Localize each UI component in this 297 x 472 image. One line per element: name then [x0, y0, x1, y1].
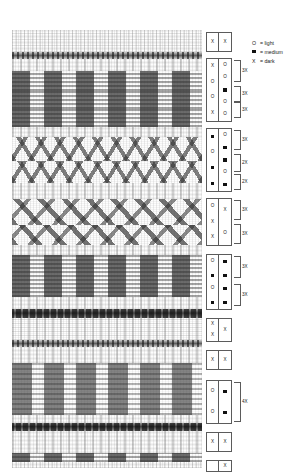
notation-block-5-right-column — [219, 255, 231, 309]
notation-block-8-right-column — [219, 381, 231, 423]
fabric-band-speckle-6 — [12, 297, 202, 309]
notation-cell-left-char: X — [207, 106, 218, 122]
fabric-band-blocks-5 — [12, 277, 202, 297]
notation-block-9-right-column: X — [219, 433, 231, 451]
notation-cell-left-char: O — [207, 381, 218, 402]
notation-block-4-right-column: XO — [219, 199, 231, 245]
notation-cell-left-square — [207, 296, 218, 310]
legend-label: = medium — [260, 49, 283, 55]
notation-cell-left-char: X — [207, 33, 218, 51]
fabric-band-speckle-top — [12, 30, 202, 52]
medium-square-icon — [252, 50, 256, 54]
fabric-band-speckle-5 — [12, 245, 202, 255]
notation-block-3-right-column: OO — [219, 129, 231, 191]
notation-block-10-left-column — [207, 461, 219, 471]
medium-square-icon — [211, 301, 214, 304]
notation-cell-right-square — [219, 84, 231, 96]
fabric-band-cord-1 — [12, 52, 202, 59]
notation-cell-left-char: O — [207, 282, 218, 296]
notation-block-4-left-column: OXX — [207, 199, 219, 245]
notation-cell-left-char: X — [207, 230, 218, 245]
notation-block-2-repeat-bracket — [234, 60, 241, 82]
fabric-band-speckle-4 — [12, 183, 202, 199]
weave-notation-column: XXXOOXOOOO3X3X3XOOO3X2X2XOXXXO3X3XOO3X3X… — [206, 32, 258, 472]
notation-cell-left-char: X — [207, 214, 218, 229]
legend-label: = dark — [260, 58, 275, 64]
notation-block-2-repeat-label: 3X — [242, 108, 248, 113]
notation-cell-right-square — [219, 179, 231, 191]
legend-row-medium: = medium — [252, 47, 297, 56]
notation-block-4-repeat-label: 3X — [242, 232, 248, 237]
notation-block-8: OO4X — [206, 380, 258, 424]
fabric-band-speckle-2 — [12, 59, 202, 71]
notation-block-3-repeat-label: 2X — [242, 161, 248, 166]
fabric-band-speckle-3 — [12, 127, 202, 137]
notation-block-8-left-column: OO — [207, 381, 219, 423]
notation-cell-left-square — [207, 176, 218, 192]
notation-cell-right-char: O — [219, 96, 231, 108]
legend-row-o: O= light — [252, 38, 297, 47]
notation-cell-left-char: O — [207, 199, 218, 214]
notation-block-9-grid: XX — [206, 432, 232, 452]
notation-cell-left-char: X — [207, 433, 218, 451]
notation-cell-right-char: O — [219, 166, 231, 178]
legend-symbol-x: X — [252, 58, 260, 64]
fabric-band-zigzag-4 — [12, 225, 202, 245]
fabric-band-zigzag-3 — [12, 199, 202, 225]
notation-cell-right-char: X — [219, 433, 231, 451]
notation-block-2: XOOXOOOO3X3X3X — [206, 58, 258, 122]
notation-cell-right-square — [219, 296, 231, 310]
notation-block-4-repeat-bracket — [234, 224, 241, 244]
medium-square-icon — [223, 158, 226, 161]
medium-square-icon — [223, 301, 226, 304]
notation-block-4-repeat-bracket — [234, 200, 241, 220]
notation-block-7-right-column: X — [219, 351, 231, 369]
notation-block-8-repeat-bracket — [234, 382, 241, 422]
legend-row-x: X= dark — [252, 56, 297, 65]
notation-cell-right-square — [219, 154, 231, 166]
notation-block-6-left-column: XX — [207, 319, 219, 341]
notation-block-5-repeat-bracket — [234, 284, 241, 306]
notation-cell-right-char: X — [219, 461, 231, 471]
medium-square-icon — [223, 260, 226, 263]
fabric-band-blocks-2 — [12, 91, 202, 109]
notation-block-5-repeat-label: 3X — [242, 293, 248, 298]
notation-cell-left-char: O — [207, 75, 218, 91]
notation-cell-right-char: X — [219, 351, 231, 369]
notation-block-7: XX — [206, 350, 258, 370]
notation-block-1: XX — [206, 32, 258, 52]
fabric-band-speckle-8 — [12, 347, 202, 363]
notation-block-4-grid: OXXXO — [206, 198, 232, 246]
notation-cell-right-char: O — [219, 222, 231, 245]
notation-cell-left-square — [207, 269, 218, 283]
notation-block-2-repeat-bracket — [234, 102, 241, 118]
notation-block-2-grid: XOOXOOOO — [206, 58, 232, 122]
notation-cell-right-char: X — [219, 319, 231, 341]
notation-cell-right-square — [219, 381, 231, 402]
notation-block-5: OO3X3X — [206, 254, 258, 310]
medium-square-icon — [223, 183, 226, 186]
fabric-band-cord-3 — [12, 340, 202, 347]
notation-block-3-left-column: O — [207, 129, 219, 191]
notation-block-5-repeat-bracket — [234, 256, 241, 278]
notation-block-3-repeat-bracket — [234, 174, 241, 190]
notation-cell-left-char: X — [207, 59, 218, 75]
notation-block-3-repeat-label: 2X — [242, 180, 248, 185]
notation-cell-left-char: X — [207, 351, 218, 369]
fabric-band-speckle-7 — [12, 318, 202, 340]
notation-block-2-repeat-bracket — [234, 86, 241, 102]
notation-cell-left-char: O — [207, 255, 218, 269]
notation-block-6-grid: XXX — [206, 318, 232, 342]
notation-block-1-right-column: X — [219, 33, 231, 51]
fabric-band-blocks-4 — [12, 255, 202, 277]
notation-block-8-grid: OO — [206, 380, 232, 424]
fabric-band-zigzag-2 — [12, 161, 202, 183]
notation-block-1-grid: XX — [206, 32, 232, 52]
notation-block-10-grid: X — [206, 460, 232, 472]
notation-block-3: OOO3X2X2X — [206, 128, 258, 192]
notation-cell-right-char: O — [219, 59, 231, 71]
notation-cell-right-square — [219, 255, 231, 269]
notation-block-7-grid: XX — [206, 350, 232, 370]
legend-label: = light — [260, 40, 274, 46]
medium-square-icon — [223, 146, 226, 149]
